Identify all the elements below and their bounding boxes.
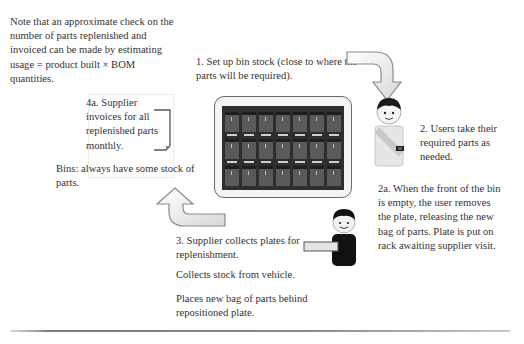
bin-label — [261, 161, 271, 163]
bin — [242, 166, 256, 186]
bin — [327, 112, 341, 132]
bin-label — [329, 134, 339, 136]
invoice-note-line: replenished parts — [86, 124, 176, 138]
step-3b-text: Collects stock from vehicle. — [176, 268, 326, 282]
bin — [310, 166, 324, 186]
bin — [259, 166, 273, 186]
bin — [242, 139, 256, 159]
bin-rack-grid — [222, 106, 344, 190]
step-line: 3. Supplier collects plates for — [176, 234, 326, 248]
check-note: Note that an approximate check on the nu… — [10, 15, 200, 86]
bin-label — [329, 161, 339, 163]
invoice-note: 4a. Supplier invoices for all replenishe… — [86, 96, 176, 153]
step-line: replenishment. — [176, 248, 326, 262]
step-line: required parts as — [420, 136, 520, 150]
check-note-line: usage = product built × BOM — [10, 58, 200, 72]
step-line: rack awaiting supplier visit. — [378, 239, 524, 253]
bottom-divider — [10, 330, 510, 332]
bin — [276, 112, 290, 132]
bin-label — [295, 134, 305, 136]
bin — [259, 112, 273, 132]
bin — [293, 112, 307, 132]
bin-label — [261, 134, 271, 136]
invoice-note-line: invoices for all — [86, 110, 176, 124]
bin-label — [227, 161, 237, 163]
invoice-note-line: monthly. — [86, 139, 176, 153]
step-3-text: 3. Supplier collects plates for replenis… — [176, 234, 326, 262]
step-2a-text: 2a. When the front of the bin is empty, … — [378, 182, 524, 253]
curved-arrow-down-icon — [345, 44, 405, 104]
step-line: bag of parts. Plate is put on — [378, 225, 524, 239]
step-line: Collects stock from vehicle. — [176, 268, 326, 282]
bin — [225, 166, 239, 186]
bin — [225, 139, 239, 159]
bin-label — [278, 134, 288, 136]
bin — [327, 166, 341, 186]
step-line: repositioned plate. — [176, 306, 346, 320]
step-line: Places new bag of parts behind — [176, 292, 346, 306]
check-note-line: quantities. — [10, 72, 200, 86]
bin-label — [244, 134, 254, 136]
bin-label — [312, 161, 322, 163]
bin — [259, 139, 273, 159]
step-line: needed. — [420, 150, 520, 164]
bin-label — [312, 134, 322, 136]
step-2-text: 2. Users take their required parts as ne… — [420, 122, 520, 165]
bin — [310, 112, 324, 132]
step-line: 2a. When the front of the bin — [378, 182, 524, 196]
check-note-line: invoiced can be made by estimating — [10, 43, 200, 57]
bin — [242, 112, 256, 132]
bin — [327, 139, 341, 159]
check-note-line: Note that an approximate check on the — [10, 15, 200, 29]
user-figure-icon — [372, 96, 406, 168]
bin — [293, 139, 307, 159]
bin-label — [295, 161, 305, 163]
step-line: 2. Users take their — [420, 122, 520, 136]
invoice-note-line: 4a. Supplier — [86, 96, 176, 110]
bin — [293, 166, 307, 186]
bin-label — [244, 161, 254, 163]
bin — [310, 139, 324, 159]
check-note-line: number of parts replenished and — [10, 29, 200, 43]
bin — [225, 112, 239, 132]
step-line: is empty, the user removes — [378, 196, 524, 210]
bins-note-line: Bins: always have some stock of — [56, 162, 206, 176]
bin-label — [227, 134, 237, 136]
bin — [276, 166, 290, 186]
bin-label — [278, 161, 288, 163]
bin — [276, 139, 290, 159]
curved-arrow-up-icon — [155, 186, 227, 228]
step-line: the plate, releasing the new — [378, 210, 524, 224]
bin-rack-image — [214, 96, 352, 198]
step-3c-text: Places new bag of parts behind repositio… — [176, 292, 346, 320]
